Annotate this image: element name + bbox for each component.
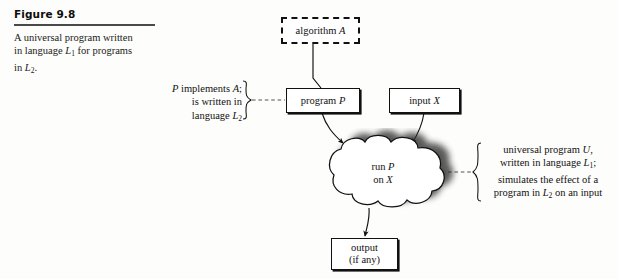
cloud-line-2-text: on [373,174,386,185]
right-annot-line-2-post: ; [593,157,596,168]
node-output-line-2: (if any) [349,254,380,266]
caption-divider-rule [14,24,155,26]
node-input-label: input X [409,95,440,107]
left-annotation-text: P implements A; is written in language L… [150,82,242,125]
right-annotation-brace [473,143,481,201]
caption-line-3-pre: in [14,62,25,73]
node-algorithm-label: algorithm A [296,25,346,37]
figure-number: Figure 9.8 [14,8,164,20]
node-algorithm-a[interactable]: algorithm A [281,17,360,44]
cloud-label: run P on X [348,160,418,186]
caption-line-3-post: . [34,62,37,73]
cloud-line-2-var: X [386,174,392,185]
cloud-line-1-var: P [388,161,394,172]
left-annot-mid: implements [178,83,232,94]
left-annot-line-3-pre: language [192,110,233,121]
left-annot-line-2: is written in [192,96,242,107]
right-annot-line-1-pre: universal program [503,144,582,155]
figure-caption-text: A universal program written in language … [14,31,164,77]
right-annot-line-1-post: , [590,144,593,155]
cloud-line-1-text: run [371,161,388,172]
right-annotation-text: universal program U, written in language… [482,143,614,203]
connector-algorithm-to-program [313,44,321,88]
right-annot-line-4-pre: program in [494,187,543,198]
figure-caption-block: Figure 9.8 A universal program written i… [14,8,164,77]
caption-line-2-post: for programs [75,45,132,56]
caption-line-1: A universal program written [14,32,133,43]
node-program-label: program P [301,95,346,107]
node-output-line-1: output [351,242,378,254]
right-annot-line-4-post: on an input [552,187,602,198]
left-annot-line-3-sub: 2 [238,114,242,123]
left-annot-post: ; [239,83,242,94]
figure-container: Figure 9.8 A universal program written i… [0,0,618,279]
caption-line-2-pre: in language [14,45,65,56]
right-annot-line-1-var: U [583,144,591,155]
right-annot-line-3: simulates the effect of a [498,174,598,185]
node-output[interactable]: output (if any) [331,238,398,270]
node-program-p[interactable]: program P [286,88,360,113]
left-annotation-brace [243,81,251,119]
node-input-x[interactable]: input X [389,88,460,113]
right-annot-line-2-pre: written in language [500,157,584,168]
